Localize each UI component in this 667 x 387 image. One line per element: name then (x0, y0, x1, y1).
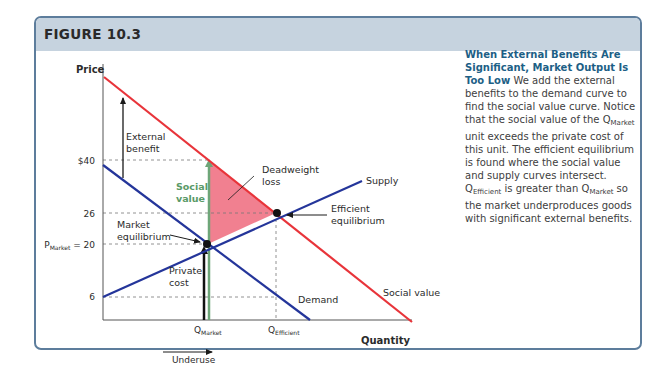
figure-caption: When External Benefits Are Significant, … (465, 48, 637, 225)
y-axis-label: Price (76, 64, 105, 75)
caption-q-market-2: QMarket (582, 183, 614, 194)
x-axis-label: Quantity (361, 335, 410, 346)
demand-label: Demand (298, 294, 338, 305)
efficient-equilibrium-label: Efficient equilibrium (331, 203, 385, 226)
y-tick-6: 6 (89, 292, 95, 302)
market-eq-pointer (170, 235, 200, 242)
efficient-equilibrium-point (273, 209, 281, 217)
caption-text-3: is greater than (501, 183, 581, 194)
y-tick-26: 26 (84, 209, 96, 219)
private-cost-label: Private cost (169, 265, 205, 288)
supply-label: Supply (366, 175, 399, 186)
x-tick-q-efficient: QEfficient (268, 325, 300, 336)
caption-q-efficient: QEfficient (465, 183, 501, 194)
market-equilibrium-point (203, 240, 211, 248)
underuse-label: Underuse (172, 355, 216, 365)
y-tick-20: PMarket = 20 (44, 240, 95, 251)
caption-q-market: QMarket (603, 114, 635, 125)
y-tick-40: $40 (78, 156, 95, 166)
x-tick-q-market: QMarket (194, 325, 222, 336)
deadweight-loss-label: Deadweight loss (262, 164, 322, 187)
external-benefit-label: External benefit (126, 131, 168, 154)
social-value-label: Social value (176, 181, 211, 204)
social-value-curve-label: Social value (383, 287, 440, 298)
market-equilibrium-label: Market equilibrium (117, 219, 171, 242)
caption-text-2: unit exceeds the private cost of this un… (465, 131, 634, 181)
